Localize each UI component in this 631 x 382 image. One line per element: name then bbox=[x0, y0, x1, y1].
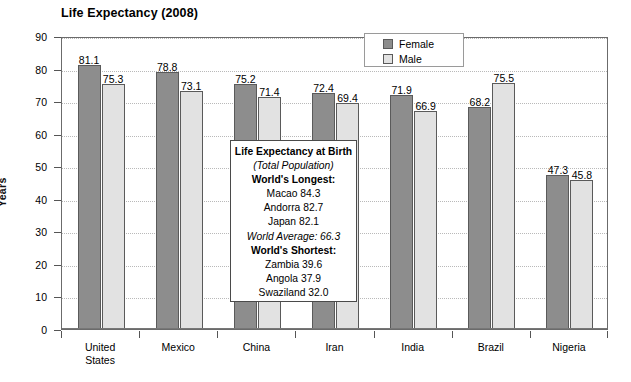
bar-mexico-male bbox=[180, 91, 203, 329]
x-axis-tick-mark bbox=[61, 331, 62, 338]
y-axis-tick-label: 40 bbox=[35, 194, 47, 206]
x-axis-tick-label: Nigeria bbox=[552, 341, 585, 354]
bar-value-label: 75.3 bbox=[103, 73, 123, 85]
x-axis-tick-label-line: Brazil bbox=[478, 341, 504, 354]
bar-nigeria-male bbox=[570, 180, 593, 329]
y-axis-tick-mark bbox=[54, 265, 61, 266]
bar-united-states-female bbox=[78, 65, 101, 329]
bar-value-label: 73.1 bbox=[181, 80, 201, 92]
legend: FemaleMale bbox=[364, 33, 464, 67]
x-axis-tick-mark bbox=[295, 331, 296, 338]
x-axis-tick-mark bbox=[452, 331, 453, 338]
x-axis-tick-mark bbox=[530, 331, 531, 338]
bar-nigeria-female bbox=[546, 175, 569, 329]
bar-value-label: 47.3 bbox=[548, 164, 568, 176]
y-axis-tick-label: 60 bbox=[35, 129, 47, 141]
x-axis: UnitedStatesMexicoChinaIranIndiaBrazilNi… bbox=[61, 331, 608, 381]
callout-line: Macao 84.3 bbox=[234, 187, 353, 201]
page-title: Life Expectancy (2008) bbox=[61, 6, 198, 20]
bar-brazil-male bbox=[492, 83, 515, 329]
chart-figure: Life Expectancy (2008) Years 01020304050… bbox=[0, 0, 631, 382]
bar-value-label: 72.4 bbox=[313, 82, 333, 94]
x-axis-tick-mark bbox=[139, 331, 140, 338]
x-axis-tick-label: UnitedStates bbox=[85, 341, 115, 367]
x-axis-tick-label-line: Nigeria bbox=[552, 341, 585, 354]
callout-line: Swaziland 32.0 bbox=[234, 286, 353, 300]
axis-baseline bbox=[62, 328, 607, 329]
x-axis-tick-mark bbox=[374, 331, 375, 338]
gridline bbox=[62, 38, 607, 39]
y-axis-tick-mark bbox=[54, 102, 61, 103]
callout-line: (Total Population) bbox=[234, 159, 353, 173]
bar-value-label: 78.8 bbox=[157, 61, 177, 73]
bar-india-male bbox=[414, 111, 437, 329]
x-axis-tick-label: Brazil bbox=[478, 341, 504, 354]
x-axis-tick-label-line: Mexico bbox=[162, 341, 195, 354]
y-axis-tick-label: 10 bbox=[35, 291, 47, 303]
x-axis-tick-label: India bbox=[401, 341, 424, 354]
y-axis-tick-label: 0 bbox=[41, 324, 47, 336]
legend-swatch-female-icon bbox=[383, 39, 393, 49]
y-axis-tick-label: 90 bbox=[35, 31, 47, 43]
legend-item-male[interactable]: Male bbox=[383, 52, 463, 66]
y-axis-tick-label: 80 bbox=[35, 64, 47, 76]
bar-value-label: 71.9 bbox=[391, 84, 411, 96]
gridline bbox=[62, 71, 607, 72]
x-axis-tick-label-line: Iran bbox=[325, 341, 343, 354]
bar-india-female bbox=[390, 95, 413, 329]
callout-line: World Average: 66.3 bbox=[234, 230, 353, 244]
y-axis-tick-mark bbox=[54, 232, 61, 233]
legend-item-label: Female bbox=[399, 38, 434, 50]
bar-united-states-male bbox=[102, 84, 125, 329]
bar-value-label: 68.2 bbox=[470, 96, 490, 108]
bar-brazil-female bbox=[468, 107, 491, 329]
x-axis-tick-label: Mexico bbox=[162, 341, 195, 354]
x-axis-tick-label: Iran bbox=[325, 341, 343, 354]
y-axis-tick-label: 20 bbox=[35, 259, 47, 271]
y-axis-tick-label: 50 bbox=[35, 161, 47, 173]
callout-line: Andorra 82.7 bbox=[234, 201, 353, 215]
legend-swatch-male-icon bbox=[383, 54, 393, 64]
legend-item-label: Male bbox=[399, 53, 422, 65]
x-axis-tick-label-line: China bbox=[243, 341, 270, 354]
bar-value-label: 75.5 bbox=[494, 72, 514, 84]
x-axis-tick-mark bbox=[607, 331, 608, 338]
callout-line: Zambia 39.6 bbox=[234, 258, 353, 272]
y-axis-tick-mark bbox=[54, 200, 61, 201]
callout-line: Life Expectancy at Birth bbox=[234, 145, 353, 159]
x-axis-tick-label-line: States bbox=[85, 354, 115, 367]
callout-box: Life Expectancy at Birth(Total Populatio… bbox=[230, 140, 357, 302]
bar-mexico-female bbox=[156, 72, 179, 329]
bar-value-label: 66.9 bbox=[415, 100, 435, 112]
y-axis-tick-mark bbox=[54, 297, 61, 298]
x-axis-tick-label-line: India bbox=[401, 341, 424, 354]
x-axis-tick-label-line: United bbox=[85, 341, 115, 354]
y-axis-tick-mark bbox=[54, 167, 61, 168]
y-axis-tick-mark bbox=[54, 37, 61, 38]
bar-value-label: 45.8 bbox=[572, 169, 592, 181]
y-axis-tick-mark bbox=[54, 70, 61, 71]
callout-line: World's Longest: bbox=[234, 173, 353, 187]
y-axis-tick-mark bbox=[54, 135, 61, 136]
callout-line: World's Shortest: bbox=[234, 244, 353, 258]
x-axis-tick-label: China bbox=[243, 341, 270, 354]
x-axis-tick-mark bbox=[217, 331, 218, 338]
y-axis-tick-label: 30 bbox=[35, 226, 47, 238]
bar-value-label: 71.4 bbox=[259, 86, 279, 98]
bar-value-label: 75.2 bbox=[235, 73, 255, 85]
y-axis-tick-mark bbox=[54, 330, 61, 331]
y-axis-title: Years bbox=[0, 177, 8, 207]
legend-item-female[interactable]: Female bbox=[383, 37, 463, 51]
y-axis: Years 0102030405060708090 bbox=[0, 37, 61, 331]
callout-line: Angola 37.9 bbox=[234, 272, 353, 286]
callout-line: Japan 82.1 bbox=[234, 215, 353, 229]
bar-value-label: 69.4 bbox=[337, 92, 357, 104]
y-axis-tick-label: 70 bbox=[35, 96, 47, 108]
bar-value-label: 81.1 bbox=[79, 54, 99, 66]
